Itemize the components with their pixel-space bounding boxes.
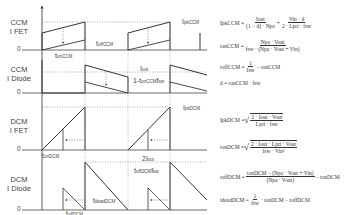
two-iout-fraction-num: 2Iout — [142, 155, 154, 164]
equation-ipk-ccm: IpkCCM = Iout(1 − d) · Npa + Vin · d2 · … — [220, 16, 313, 29]
toff-dcm-label: toffDCM — [66, 210, 83, 215]
equation-tdead-dcm: tdeadDCM = 1fsw · tonDCM − toffDCM — [220, 193, 310, 206]
row-label-line1: DCM — [2, 117, 36, 126]
zero-label: 0 — [17, 45, 21, 52]
row-label-ccm-fet: CCM I FET — [2, 18, 36, 36]
zero-label: 0 — [17, 205, 21, 212]
iout-ccm-fraction-den: 1-tonCCMfsw — [133, 77, 164, 86]
iout-ccm-fraction-num: Iout — [140, 65, 148, 74]
zero-label: 0 — [17, 88, 21, 95]
row-label-dcm-diode: DCM I Diode — [2, 175, 36, 193]
equation-ipk-dcm: IpkDCM = √2 · Iout · VoutLpri · fsw — [220, 113, 284, 127]
row-label-dcm-fet: DCM I FET — [2, 117, 36, 135]
ipk-ccm-label: IpkCCM — [182, 18, 199, 27]
toff-ccm-label: toffCCM — [96, 40, 113, 49]
two-iout-fraction-den: toffDCMfsw — [134, 167, 159, 176]
row-label-line1: CCM — [2, 18, 36, 27]
zero-label: 0 — [17, 145, 21, 152]
row-label-line2: I Diode — [2, 184, 36, 193]
tdead-dcm-label: tdeadDCM — [93, 197, 115, 206]
row-label-line1: DCM — [2, 175, 36, 184]
ipk-dcm-label: IpkDCM — [183, 104, 200, 113]
row-label-line2: I FET — [2, 126, 36, 135]
row-label-line1: CCM — [2, 65, 36, 74]
equation-toff-dcm: toffDCM = tonDCM − (Npa · Vout + Vin)(Np… — [220, 170, 340, 183]
equation-duty-cycle: d = tonCCM · fsw — [220, 80, 260, 86]
row-label-line2: I Diode — [2, 74, 36, 83]
row-label-line2: I FET — [2, 27, 36, 36]
ton-ccm-label: tonCCM — [55, 52, 72, 61]
equation-ton-dcm: tonDCM = √2 · Iout · Lpri · Voutfsw · Vi… — [220, 140, 298, 154]
row-label-ccm-diode: CCM I Diode — [2, 65, 36, 83]
equation-toff-ccm: toffCCM = 1fsw − tonCCM — [220, 60, 280, 73]
ton-dcm-label: tonDCM — [42, 152, 59, 161]
equation-ton-ccm: tonCCM = Npa · Voutfsw · (Npa · Vout + V… — [220, 39, 302, 52]
